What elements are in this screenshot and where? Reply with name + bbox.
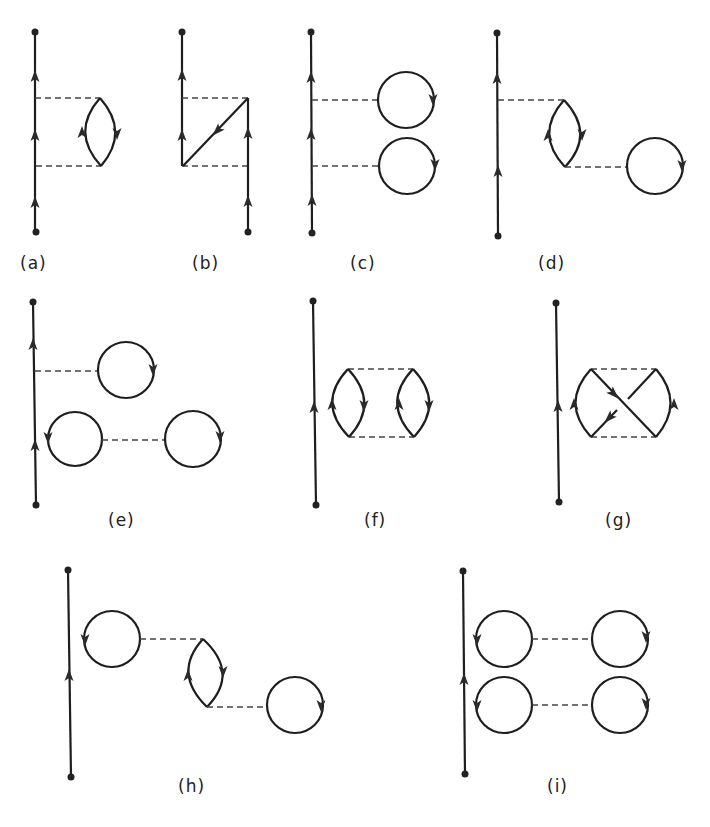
feynman-diagram-figure (0, 0, 710, 827)
label-f: (f) (364, 510, 386, 530)
label-d: (d) (538, 253, 565, 273)
label-h: (h) (178, 776, 205, 796)
diagram-d (493, 30, 687, 240)
diagram-e (29, 299, 225, 509)
label-e: (e) (108, 510, 135, 530)
label-g: (g) (605, 510, 632, 530)
label-i: (i) (547, 776, 568, 796)
diagram-f (310, 298, 434, 509)
diagram-c (307, 29, 440, 237)
label-a: (a) (20, 253, 47, 273)
label-b: (b) (192, 253, 219, 273)
diagram-a (31, 29, 122, 236)
diagram-i (460, 568, 651, 778)
diagram-b (178, 29, 253, 236)
label-c: (c) (350, 253, 376, 273)
diagram-g (553, 300, 679, 506)
diagram-h (65, 567, 326, 781)
